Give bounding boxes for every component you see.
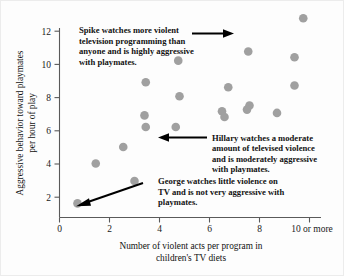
x-tick-label-8: 8: [257, 224, 262, 234]
x-tick-label-2: 2: [107, 224, 112, 234]
y-tick-label-2: 2: [46, 193, 51, 203]
data-point: [273, 109, 282, 118]
y-tick-label-10: 10: [42, 60, 52, 70]
x-tick-label-4: 4: [157, 224, 162, 234]
x-axis-tick-labels: 0 2 4 6 8 10 or more: [57, 224, 333, 234]
data-point-george: [73, 199, 82, 208]
spike-arrow: [192, 29, 234, 38]
x-tick-label-10-or-more: 10 or more: [291, 224, 333, 234]
x-axis-title-line-1: Number of violent acts per program in: [119, 241, 262, 251]
y-axis-title-line-2: per hour of play: [27, 93, 37, 153]
data-point: [141, 123, 150, 132]
x-tick-label-6: 6: [207, 224, 212, 234]
scatter-plot-figure: 12 10 8 6 4 2 0 2 4 6 8 10 or more: [0, 0, 344, 276]
spike-annotation-line-3: anyone and is highly aggressive: [79, 46, 194, 56]
hillary-annotation: Hillary watches a moderate amount of tel…: [212, 133, 317, 175]
y-axis-tick-labels: 12 10 8 6 4 2: [42, 27, 52, 203]
data-point: [224, 83, 233, 92]
x-tick-label-0: 0: [57, 224, 62, 234]
data-point: [220, 113, 229, 122]
y-tick-label-4: 4: [46, 159, 51, 169]
y-axis-title-line-1: Aggressive behavior toward playmates: [15, 50, 25, 195]
y-axis-title: Aggressive behavior toward playmates per…: [15, 50, 37, 195]
data-point: [290, 53, 299, 62]
spike-annotation-line-2: television programming than: [79, 36, 186, 46]
spike-annotation-line-4: with playmates.: [79, 57, 137, 67]
chart-canvas: 12 10 8 6 4 2 0 2 4 6 8 10 or more: [1, 1, 344, 276]
george-annotation: George watches little violence on TV and…: [158, 176, 284, 207]
george-arrow: [76, 183, 143, 206]
george-annotation-line-3: playmates.: [158, 197, 197, 207]
hillary-annotation-line-1: Hillary watches a moderate: [212, 133, 313, 143]
george-arrow-shaft: [85, 183, 143, 203]
data-point: [141, 78, 150, 87]
data-point: [175, 92, 184, 101]
data-point-hillary: [171, 123, 180, 132]
spike-arrow-head: [223, 29, 234, 38]
hillary-annotation-line-2: amount of televised violence: [212, 143, 315, 153]
george-annotation-line-1: George watches little violence on: [158, 176, 278, 186]
data-point: [244, 47, 253, 56]
data-point: [140, 111, 149, 120]
hillary-annotation-line-3: and is moderately aggressive: [212, 154, 317, 164]
y-axis-ticks: [55, 31, 60, 197]
data-point: [243, 105, 252, 114]
spike-annotation-line-1: Spike watches more violent: [79, 25, 179, 35]
data-point-spike: [299, 14, 308, 23]
hillary-arrow: [158, 133, 207, 142]
y-tick-label-12: 12: [42, 27, 52, 37]
data-point: [174, 56, 183, 65]
data-point: [91, 159, 100, 168]
y-tick-label-8: 8: [46, 93, 51, 103]
x-axis-title: Number of violent acts per program in ch…: [119, 241, 262, 263]
george-annotation-line-2: TV and is not very aggressive with: [158, 187, 284, 197]
data-point: [119, 143, 128, 152]
data-point: [290, 81, 299, 90]
y-tick-label-6: 6: [46, 126, 51, 136]
hillary-arrow-head: [158, 133, 169, 142]
x-axis-ticks: [60, 218, 310, 223]
x-axis-title-line-2: children's TV diets: [156, 253, 226, 263]
hillary-annotation-line-4: with playmates.: [212, 164, 270, 174]
